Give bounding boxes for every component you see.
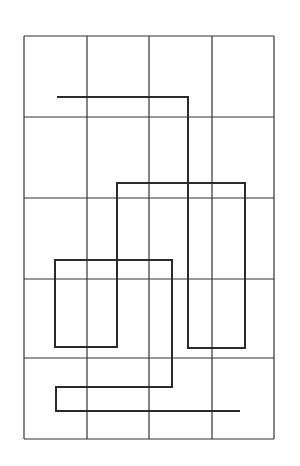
path-line xyxy=(55,97,245,411)
diagram-canvas xyxy=(0,0,300,466)
grid-path-diagram xyxy=(0,0,300,466)
maze-path xyxy=(55,97,245,411)
